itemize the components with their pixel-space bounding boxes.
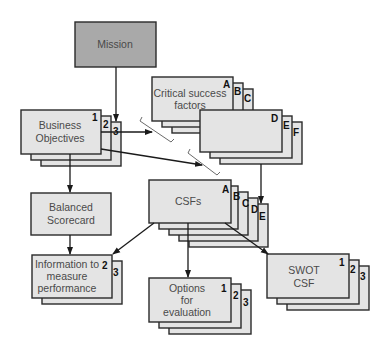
information-line1: Information to <box>35 258 99 270</box>
options-node: Options for evaluation 1 2 3 <box>149 278 251 334</box>
csf-line2: factors <box>174 99 206 111</box>
csf-tag-b: B <box>234 86 241 97</box>
swot-csf-node: SWOT CSF 1 2 3 <box>267 254 369 310</box>
information-tag-2: 2 <box>102 260 108 271</box>
options-line2: for <box>181 294 194 306</box>
csfs-tag-d: D <box>251 204 258 215</box>
arrow-csfs-to-information <box>113 223 154 254</box>
information-line2: measure <box>47 270 88 282</box>
csf-tag-d: D <box>271 113 278 124</box>
options-tag-2: 2 <box>233 290 239 301</box>
csfs-node: CSFs A B C D E <box>149 180 268 247</box>
csf-tag-c: C <box>244 93 251 104</box>
diagram-canvas: Mission Business Objectives 1 2 3 Critic… <box>0 0 392 348</box>
swot-tag-1: 1 <box>339 257 345 268</box>
csfs-tag-e: E <box>259 211 266 222</box>
information-tag-3: 3 <box>113 267 119 278</box>
csf-tag-f: F <box>293 127 299 138</box>
swot-tag-2: 2 <box>350 264 356 275</box>
balanced-scorecard-line1: Balanced <box>49 201 93 213</box>
mission-node: Mission <box>75 22 156 67</box>
balanced-scorecard-line2: Scorecard <box>47 214 95 226</box>
business-objectives-tag-1: 1 <box>92 112 98 123</box>
information-node: Information to measure performance 2 3 <box>32 255 122 304</box>
options-line3: evaluation <box>163 306 211 318</box>
options-tag-1: 1 <box>221 283 227 294</box>
mission-label: Mission <box>97 38 133 50</box>
csfs-label: CSFs <box>175 195 201 207</box>
swot-tag-3: 3 <box>360 271 366 282</box>
business-objectives-line2: Objectives <box>35 132 84 144</box>
options-line1: Options <box>169 282 205 294</box>
csfs-tag-c: C <box>242 198 249 209</box>
business-objectives-node: Business Objectives 1 2 3 <box>21 110 121 166</box>
csf-tag-a: A <box>223 79 230 90</box>
information-line3: performance <box>38 282 97 294</box>
csfs-tag-b: B <box>233 191 240 202</box>
csf-line1: Critical success <box>154 87 227 99</box>
csf-tag-e: E <box>283 120 290 131</box>
swot-line2: CSF <box>294 277 315 289</box>
business-objectives-line1: Business <box>39 119 82 131</box>
csf-continuation-node: D E F <box>200 110 302 164</box>
swot-line1: SWOT <box>288 264 320 276</box>
balanced-scorecard-node: Balanced Scorecard <box>31 193 111 235</box>
options-tag-3: 3 <box>243 297 249 308</box>
csfs-tag-a: A <box>222 184 229 195</box>
business-objectives-tag-2: 2 <box>103 119 109 130</box>
